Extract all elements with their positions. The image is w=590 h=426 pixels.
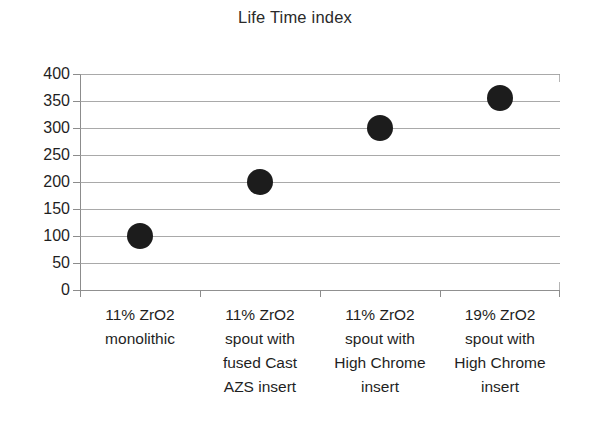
y-tick-mark [73,128,80,129]
plot-area [80,74,560,290]
x-category-label: 11% ZrO2 spout with fused Cast AZS inser… [200,303,320,418]
x-tick-mark [80,290,81,297]
y-tick-label: 150 [14,201,70,217]
gridline-200 [80,182,560,183]
y-tick-mark [73,290,80,291]
y-tick-mark [73,101,80,102]
x-tick-mark [559,290,560,297]
gridline-50 [80,263,560,264]
chart-title: Life Time index [0,8,590,27]
x-tick-mark [200,290,201,297]
y-tick-label: 300 [14,120,70,136]
gridline-250 [80,155,560,156]
y-tick-mark [73,263,80,264]
y-tick-mark [73,74,80,75]
data-point-marker[interactable] [367,115,393,141]
gridline-400 [80,74,560,75]
x-tick-mark [320,290,321,297]
y-tick-label: 350 [14,93,70,109]
y-tick-mark [73,209,80,210]
gridline-300 [80,128,560,129]
y-axis-tick-labels: 400 350 300 250 200 150 100 50 0 [6,0,70,426]
y-tick-label: 0 [14,282,70,298]
y-tick-label: 250 [14,147,70,163]
data-point-marker[interactable] [127,223,153,249]
y-tick-mark [73,182,80,183]
gridline-150 [80,209,560,210]
y-tick-mark [73,236,80,237]
x-axis-category-labels: 11% ZrO2 monolithic 11% ZrO2 spout with … [80,303,560,418]
data-point-marker[interactable] [247,169,273,195]
y-tick-label: 50 [14,255,70,271]
x-category-label: 11% ZrO2 spout with High Chrome insert [320,303,440,418]
life-time-index-chart: Life Time index 400 350 300 250 200 150 … [0,0,590,426]
x-category-label: 19% ZrO2 spout with High Chrome insert [440,303,560,418]
y-tick-label: 400 [14,66,70,82]
x-tick-mark [440,290,441,297]
data-point-marker[interactable] [487,85,513,111]
y-tick-label: 100 [14,228,70,244]
y-tick-mark [73,155,80,156]
y-tick-label: 200 [14,174,70,190]
x-category-label: 11% ZrO2 monolithic [80,303,200,418]
